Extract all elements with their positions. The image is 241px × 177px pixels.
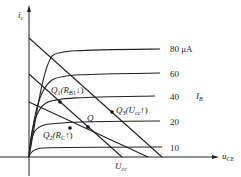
curve-label-60: 60 <box>170 70 179 79</box>
x-axis-arrow-icon <box>212 155 219 159</box>
label-q1: Q1(RB1↓) <box>51 86 84 96</box>
label-q2: Q2(RC↑) <box>43 131 73 141</box>
x-axis-label: uCE <box>222 152 234 162</box>
y-axis-arrow-icon <box>27 5 31 12</box>
point-q <box>86 125 90 129</box>
ucc-label: Ucc <box>115 162 127 172</box>
curve-label-40: 40 <box>170 93 179 102</box>
curve-ib-10 <box>29 147 162 157</box>
ib-family-label: IB <box>196 92 203 102</box>
point-q3 <box>110 110 114 114</box>
curve-label-20: 20 <box>170 118 179 127</box>
label-q3: Q3(Ucc↑) <box>116 106 148 116</box>
label-q: Q <box>87 114 94 123</box>
point-q1 <box>58 100 62 104</box>
transistor-output-characteristics <box>0 0 241 177</box>
y-axis-label: ic <box>18 11 23 21</box>
curve-label-80: 80 μA <box>170 45 193 54</box>
curve-label-10: 10 <box>170 144 179 153</box>
